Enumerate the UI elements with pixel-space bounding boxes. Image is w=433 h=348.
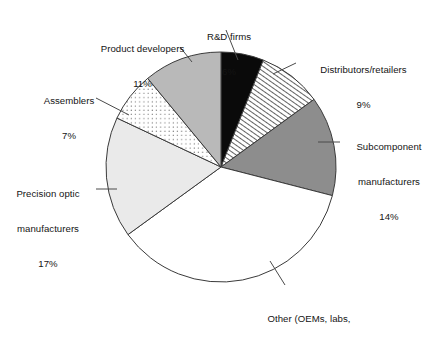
slice-label-distributors-pct: 9% <box>294 99 433 111</box>
slice-label-rd-firms: R&D firms 6% <box>183 8 275 101</box>
slice-label-subcomponent: Subcomponent manufacturers 14% <box>345 118 433 246</box>
slice-label-precision-pct: 17% <box>3 258 93 270</box>
slice-label-product-developers: Product developers 11% <box>89 20 196 113</box>
slice-label-precision-line2: manufacturers <box>3 223 93 235</box>
slice-label-subcomponent-line2: manufacturers <box>345 176 433 188</box>
slice-label-subcomponent-pct: 14% <box>345 211 433 223</box>
slice-label-precision: Precision optic manufacturers 17% <box>3 165 93 293</box>
slice-label-product-developers-pct: 11% <box>89 78 196 90</box>
slice-label-distributors-name: Distributors/retailers <box>294 64 433 76</box>
pie-chart-figure: R&D firms 6% Distributors/retailers 9% S… <box>0 0 433 348</box>
slice-label-product-developers-name: Product developers <box>89 43 196 55</box>
slice-label-assemblers-pct: 7% <box>33 130 105 142</box>
slice-label-subcomponent-line1: Subcomponent <box>345 141 433 153</box>
slice-label-precision-line1: Precision optic <box>3 188 93 200</box>
slice-label-other-line1: Other (OEMs, labs, <box>249 313 369 325</box>
slice-label-rd-firms-pct: 6% <box>183 66 275 78</box>
slice-label-other: Other (OEMs, labs, semi-conductors, prin… <box>249 290 369 348</box>
slice-label-rd-firms-name: R&D firms <box>183 31 275 43</box>
